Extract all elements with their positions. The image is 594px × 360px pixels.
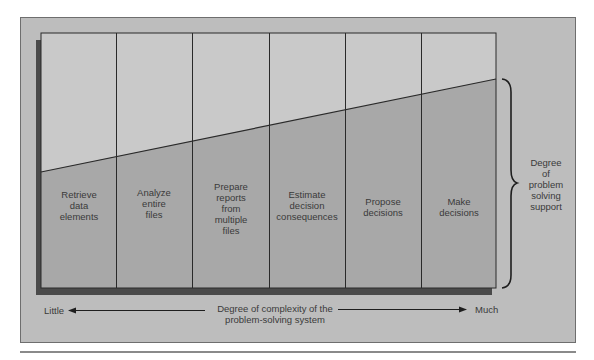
- column-label-estimate: Estimate decision consequences: [269, 189, 345, 222]
- arrow-left-icon: [68, 308, 205, 314]
- column-label-propose: Propose decisions: [345, 196, 421, 218]
- arrow-right-icon: [338, 307, 467, 313]
- axis-title-complexity: Degree of complexity of the problem-solv…: [210, 303, 340, 325]
- curly-brace-icon: [502, 79, 517, 288]
- axis-label-much: Much: [475, 304, 498, 315]
- column-label-prepare: Prepare reports from multiple files: [193, 181, 269, 236]
- side-label-support: Degree of problem solving support: [517, 157, 575, 212]
- axis-label-little: Little: [44, 305, 64, 316]
- column-label-retrieve: Retrieve data elements: [41, 189, 117, 222]
- column-label-make: Make decisions: [421, 196, 497, 218]
- column-label-analyze: Analyze entire files: [116, 187, 192, 220]
